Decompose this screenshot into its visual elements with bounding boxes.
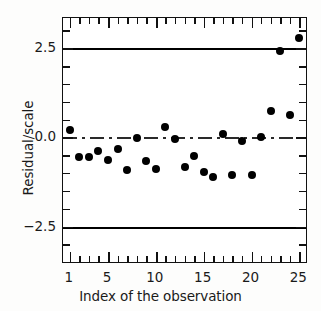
data-point xyxy=(171,135,179,143)
data-point xyxy=(295,34,303,42)
x-tick-label: 10 xyxy=(138,269,172,285)
data-point xyxy=(161,123,169,131)
data-point xyxy=(276,47,284,55)
data-point xyxy=(267,107,275,115)
data-point xyxy=(142,157,150,165)
data-point xyxy=(123,166,131,174)
x-tick-label: 1 xyxy=(52,269,86,285)
x-tick-label: 5 xyxy=(90,269,124,285)
data-point xyxy=(66,126,74,134)
data-point xyxy=(94,147,102,155)
data-point xyxy=(200,168,208,176)
data-point xyxy=(238,137,246,145)
residual-scatter-figure: −2.50.02.5 Residual/scale 1510152025 Ind… xyxy=(0,0,321,311)
data-point xyxy=(286,111,294,119)
data-point xyxy=(257,133,265,141)
data-point xyxy=(181,163,189,171)
x-tick-label: 20 xyxy=(234,269,268,285)
data-point xyxy=(228,171,236,179)
x-tick-label: 25 xyxy=(281,269,315,285)
data-point xyxy=(104,156,112,164)
x-tick-label: 15 xyxy=(186,269,220,285)
data-point xyxy=(209,173,217,181)
data-point xyxy=(133,134,141,142)
plot-area xyxy=(62,17,307,263)
data-point xyxy=(114,145,122,153)
data-point xyxy=(190,152,198,160)
data-point xyxy=(152,165,160,173)
y-axis-title: Residual/scale xyxy=(20,68,36,228)
data-point xyxy=(219,130,227,138)
data-point xyxy=(75,153,83,161)
x-axis-title: Index of the observation xyxy=(0,288,321,304)
data-point-layer xyxy=(63,18,306,262)
data-point xyxy=(248,171,256,179)
y-tick-label: 2.5 xyxy=(10,39,56,55)
data-point xyxy=(85,153,93,161)
